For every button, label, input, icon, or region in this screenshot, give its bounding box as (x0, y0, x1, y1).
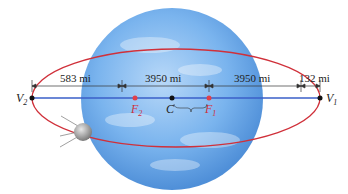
label-f1: F1 (205, 102, 216, 118)
label-left-radius: 3950 mi (145, 72, 181, 84)
center-c (170, 96, 175, 101)
label-left-gap: 583 mi (60, 72, 91, 84)
vertex-v2 (30, 96, 35, 101)
label-f2: F2 (131, 102, 142, 118)
label-right-radius: 3950 mi (234, 72, 270, 84)
label-c: C (166, 102, 174, 117)
focus-f1 (207, 96, 212, 101)
vertex-v1 (318, 96, 323, 101)
label-v1: V1 (326, 91, 337, 107)
orbit-diagram (0, 0, 348, 194)
label-right-gap: 132 mi (299, 72, 330, 84)
label-v2: V2 (16, 91, 27, 107)
focus-f2 (133, 96, 138, 101)
